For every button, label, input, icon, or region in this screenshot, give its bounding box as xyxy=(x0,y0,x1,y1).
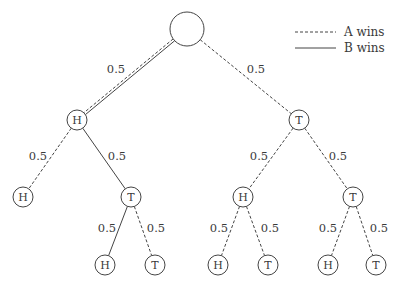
edge-probability-label: 0.5 xyxy=(210,221,228,235)
edge-probability-label: 0.5 xyxy=(107,62,125,76)
root-node xyxy=(170,12,204,46)
edge-probability-label: 0.5 xyxy=(319,221,337,235)
node-label: T xyxy=(372,259,380,272)
node-label: T xyxy=(349,191,357,204)
node-label: H xyxy=(18,191,28,204)
edge-probability-label: 0.5 xyxy=(261,221,279,235)
edge-probability-label: 0.5 xyxy=(98,221,116,235)
tree-node-hh: H xyxy=(13,187,33,207)
tree-node-tt: T xyxy=(343,187,363,207)
tree-node-thh: H xyxy=(208,255,228,275)
legend: A wins B wins xyxy=(295,25,385,55)
edge-root-h1-dashed xyxy=(84,39,173,113)
edge-probability-label: 0.5 xyxy=(329,149,347,163)
edge-probability-label: 0.5 xyxy=(29,149,47,163)
tree-node-htt: T xyxy=(145,255,165,275)
tree-node-tht: T xyxy=(258,255,278,275)
node-label: T xyxy=(127,191,135,204)
node-label: T xyxy=(264,259,272,272)
node-label: H xyxy=(72,114,82,127)
node-label: H xyxy=(213,259,223,272)
node-label: H xyxy=(100,259,110,272)
node-label: T xyxy=(151,259,159,272)
legend-label-a-wins: A wins xyxy=(343,25,384,39)
tree-node-hth: H xyxy=(95,255,115,275)
edge-root-h1-solid xyxy=(85,41,174,115)
tree-svg: 0.50.50.50.50.50.50.50.50.50.50.50.5 HTH… xyxy=(0,0,400,286)
tree-node-t1: T xyxy=(289,110,309,130)
tree-nodes: HTHTHTHTHTHT xyxy=(13,12,386,275)
tree-node-th: H xyxy=(233,187,253,207)
tree-node-ttt: T xyxy=(366,255,386,275)
edge-probability-label: 0.5 xyxy=(370,221,388,235)
edge-root-t1-dashed xyxy=(200,40,291,114)
legend-label-b-wins: B wins xyxy=(344,41,385,55)
tree-node-ht: T xyxy=(121,187,141,207)
node-label: H xyxy=(323,259,333,272)
edge-probability-label: 0.5 xyxy=(247,62,265,76)
edge-probability-label: 0.5 xyxy=(108,149,126,163)
tree-node-h1: H xyxy=(67,110,87,130)
edge-probability-label: 0.5 xyxy=(147,221,165,235)
tree-node-tth: H xyxy=(318,255,338,275)
probability-tree-diagram: 0.50.50.50.50.50.50.50.50.50.50.50.5 HTH… xyxy=(0,0,400,286)
node-label: T xyxy=(295,114,303,127)
edge-probability-label: 0.5 xyxy=(250,149,268,163)
node-label: H xyxy=(238,191,248,204)
edge-probability-labels: 0.50.50.50.50.50.50.50.50.50.50.50.5 xyxy=(29,62,388,235)
